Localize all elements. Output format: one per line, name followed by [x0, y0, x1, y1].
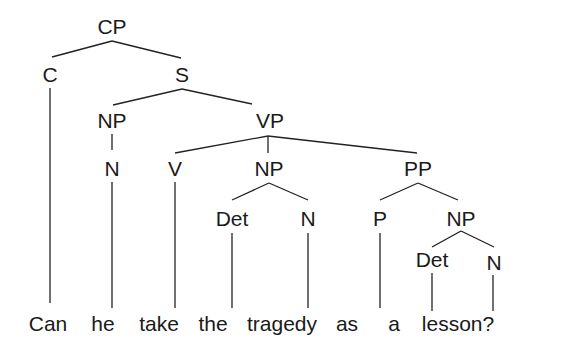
node-s: S	[175, 63, 189, 86]
word: the	[198, 312, 227, 335]
node-n-subject: N	[104, 157, 119, 180]
node-cp: CP	[97, 15, 126, 38]
node-det-pp: Det	[416, 248, 449, 271]
sentence: Can he take the tragedy as a lesson?	[29, 312, 494, 335]
node-n-pp: N	[486, 251, 501, 274]
node-np-object: NP	[254, 157, 283, 180]
syntax-tree: CP C S NP N VP V NP Det N PP P NP Det N …	[0, 0, 572, 356]
word: he	[91, 312, 114, 335]
node-c: C	[42, 63, 57, 86]
word: a	[388, 312, 400, 335]
node-np-pp: NP	[446, 207, 475, 230]
word: tragedy	[247, 312, 318, 335]
node-p: P	[373, 207, 387, 230]
word: Can	[29, 312, 68, 335]
node-v: V	[168, 157, 182, 180]
word: lesson?	[422, 312, 494, 335]
node-n-object: N	[300, 207, 315, 230]
node-vp: VP	[256, 109, 284, 132]
node-pp: PP	[404, 157, 432, 180]
word: take	[139, 312, 179, 335]
word: as	[336, 312, 358, 335]
node-det-object: Det	[216, 207, 249, 230]
node-np-subject: NP	[97, 109, 126, 132]
